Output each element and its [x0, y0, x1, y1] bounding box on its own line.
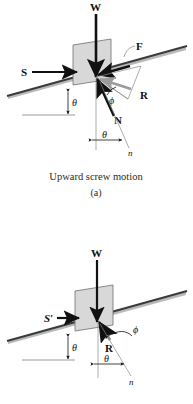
panel-a-friction-label: F: [136, 40, 143, 52]
panel-b-applied-force-label: S′: [44, 312, 53, 324]
panel-a-weight-label: W: [90, 1, 101, 13]
panel-b-normal-angle-label: θ: [104, 353, 109, 364]
panel-a-applied-force-label: S: [21, 66, 27, 78]
panel-a-incline-angle-label: θ: [72, 97, 77, 108]
friction-angle-arc-b: [108, 332, 132, 337]
friction-angle-arc-a: [107, 87, 116, 95]
panel-b-group: θ W S′ R n ϕ θ: [7, 247, 187, 387]
panel-b-incline-angle-label: θ: [72, 342, 77, 353]
panel-a-group: θ W S F R N ϕ n θ Upwar: [7, 1, 187, 199]
panel-a-caption: Upward screw motion: [49, 171, 143, 182]
panel-a-index: (a): [90, 187, 101, 199]
panel-a-resultant-label: R: [140, 89, 149, 101]
screw-motion-figure: θ W S F R N ϕ n θ Upwar: [0, 0, 193, 404]
block-b: [75, 285, 113, 331]
panel-b-friction-angle-label: ϕ: [133, 324, 138, 335]
panel-a-normal-axis-label: n: [128, 148, 133, 158]
figure-container: θ W S F R N ϕ n θ Upwar: [0, 0, 193, 404]
panel-b-normal-axis-label: n: [129, 377, 134, 387]
friction-leader-line: [124, 46, 135, 57]
panel-b-weight-label: W: [91, 247, 102, 259]
block-a: [73, 39, 111, 85]
panel-a-normal-angle-label: θ: [102, 129, 107, 140]
